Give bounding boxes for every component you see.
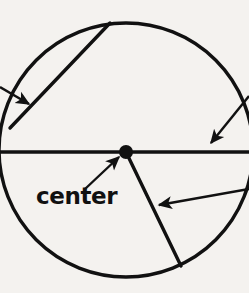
radius-line (126, 152, 181, 266)
circle-diagram-figure: center (0, 0, 249, 293)
radius-pointer-arrow (159, 189, 249, 205)
center-point-dot (119, 145, 133, 159)
circle-diagram-svg (0, 0, 249, 293)
center-label: center (36, 185, 117, 208)
circumference-pointer-arrow (211, 96, 249, 143)
